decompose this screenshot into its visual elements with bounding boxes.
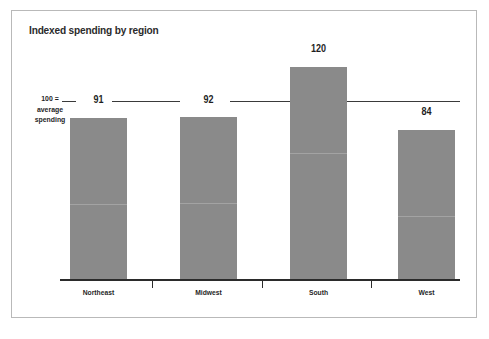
plot-area: 91 92 120 84 100 = average spending Nort… [0, 0, 489, 339]
reference-line-annotation: 100 = average spending [26, 94, 74, 126]
reference-line-annotation-line-1: 100 = [26, 94, 74, 105]
bar-west [398, 130, 455, 279]
bar-south [290, 67, 347, 279]
x-axis-label-northeast: Northeast [73, 288, 124, 297]
bar-value-northeast: 91 [73, 94, 124, 105]
x-axis-label-midwest: Midwest [183, 288, 234, 297]
x-axis-tick [152, 281, 153, 288]
x-axis-label-south: South [293, 288, 344, 297]
x-axis-label-west: West [401, 288, 452, 297]
bar-value-west: 84 [401, 106, 452, 117]
bar-value-midwest: 92 [183, 94, 234, 105]
chart-figure: Indexed spending by region 91 92 120 84 … [0, 0, 489, 339]
reference-line-annotation-line-3: spending [26, 115, 74, 126]
bar-northeast [70, 118, 127, 279]
x-axis-tick [371, 281, 372, 288]
bar-midwest [180, 117, 237, 279]
bar-value-south: 120 [293, 43, 344, 54]
x-axis-baseline [60, 279, 460, 281]
x-axis-tick [262, 281, 263, 288]
reference-line-annotation-line-2: average [26, 105, 74, 116]
